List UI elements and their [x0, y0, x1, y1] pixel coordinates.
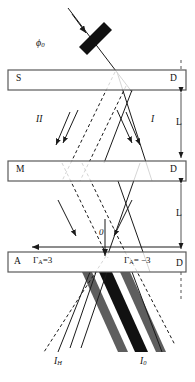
slab-label-a: A — [14, 257, 21, 267]
slab-label-d-top: D — [170, 74, 177, 84]
arrow-I-low — [114, 200, 132, 236]
arrow-II-low — [58, 200, 76, 236]
figure-canvas — [0, 0, 195, 382]
slab-s-d — [8, 70, 186, 90]
arrow-I-up — [117, 110, 132, 143]
beam-I-upper-inner — [104, 90, 132, 163]
origin-label: 0 — [99, 228, 104, 237]
arrow-II-up — [63, 110, 78, 143]
fringe-band-group — [82, 272, 166, 352]
slab-label-d-mid: D — [170, 165, 177, 175]
length-label-top: L — [176, 118, 182, 128]
exit-beam-1 — [70, 272, 96, 348]
phase-flag-label: ϕ0 — [36, 38, 45, 49]
arrow-incident — [72, 14, 86, 33]
gamma-left-label: ΓA=3 — [33, 256, 52, 265]
slab-label-m: M — [16, 165, 24, 175]
exit-beam-4 — [58, 272, 90, 352]
arrow-I-up2 — [126, 112, 140, 145]
arrow-II-up2 — [56, 112, 70, 145]
length-label-bottom: L — [176, 209, 182, 219]
beam-path-label-II: II — [36, 115, 42, 125]
origin-arrow-group — [32, 219, 181, 256]
beam-path-label-I: I — [151, 115, 154, 125]
slab-label-d-bot: D — [176, 259, 183, 269]
gamma-right-label: ΓA= −3 — [124, 256, 151, 265]
slab-group — [8, 70, 186, 272]
slab-m-d — [8, 161, 186, 181]
output-label-I0: I0 — [140, 357, 146, 367]
slab-label-s: S — [16, 74, 21, 84]
phase-flag-plate — [79, 22, 112, 55]
interferometer-figure: ϕ0 S D M D A D ΓA=3 ΓA= −3 II I L L 0 IH… — [0, 0, 195, 382]
output-label-IH: IH — [54, 357, 62, 367]
